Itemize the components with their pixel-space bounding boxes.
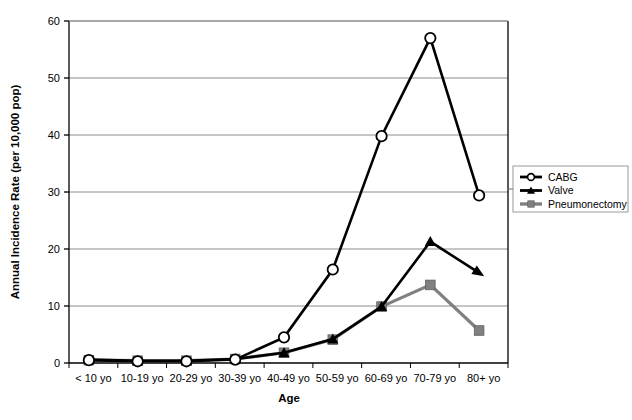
incidence-rate-line-chart: 0102030405060 < 10 yo10-19 yo20-29 yo30-… <box>0 0 632 420</box>
y-axis-tick-label: 20 <box>48 243 60 255</box>
x-axis-tick-label: 30-39 yo <box>218 372 261 384</box>
legend-marker-square <box>528 201 534 207</box>
x-axis-tick-label: 70-79 yo <box>413 372 456 384</box>
x-axis-tick-labels: < 10 yo10-19 yo20-29 yo30-39 yo40-49 yo5… <box>75 372 500 384</box>
y-axis-tick-label: 10 <box>48 300 60 312</box>
y-axis-tick-label: 40 <box>48 129 60 141</box>
legend-label-cabg: CABG <box>548 171 578 183</box>
cabg-marker-circle <box>132 356 142 366</box>
x-axis-tick-label: 60-69 yo <box>365 372 408 384</box>
x-axis-tick-label: 40-49 yo <box>267 372 310 384</box>
pneumonectomy-marker-square <box>426 280 436 290</box>
legend-label-pneumonectomy: Pneumonectomy <box>548 198 628 210</box>
legend-marker-circle <box>528 174 535 181</box>
cabg-marker-circle <box>84 355 94 365</box>
y-axis-tick-label: 30 <box>48 186 60 198</box>
cabg-marker-circle <box>474 190 484 200</box>
y-axis-tick-label: 60 <box>48 15 60 27</box>
cabg-marker-circle <box>279 332 289 342</box>
chart-figure: 0102030405060 < 10 yo10-19 yo20-29 yo30-… <box>0 0 632 420</box>
cabg-marker-circle <box>181 356 191 366</box>
y-axis-tick-label: 50 <box>48 72 60 84</box>
x-axis-title: Age <box>278 392 300 404</box>
x-axis-tick-label: < 10 yo <box>75 372 111 384</box>
pneumonectomy-marker-square <box>474 326 484 336</box>
cabg-marker-circle <box>328 264 338 274</box>
x-axis-tick-label: 80+ yo <box>467 372 500 384</box>
x-axis-tick-label: 20-29 yo <box>170 372 213 384</box>
y-axis-title: Annual Incidence Rate (per 10,000 pop) <box>9 84 21 299</box>
chart-legend: CABGValvePneumonectomy <box>508 166 628 212</box>
x-axis-tick-label: 50-59 yo <box>316 372 359 384</box>
cabg-marker-circle <box>230 354 240 364</box>
cabg-marker-circle <box>425 33 435 43</box>
legend-label-valve: Valve <box>548 184 574 196</box>
cabg-marker-circle <box>376 131 386 141</box>
y-axis-tick-label: 0 <box>54 357 60 369</box>
x-axis-tick-label: 10-19 yo <box>121 372 164 384</box>
